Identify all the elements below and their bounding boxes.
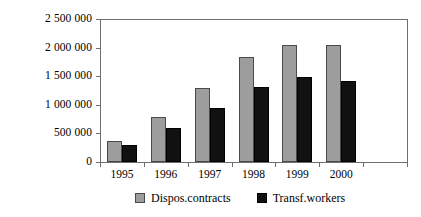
x-axis-tick-label: 1999 bbox=[275, 168, 319, 181]
legend-entry: Dispos.contracts bbox=[135, 192, 231, 204]
bar bbox=[151, 117, 166, 162]
bar bbox=[341, 81, 356, 162]
y-axis: 0500 0001 000 0001 500 0002 000 0002 500… bbox=[0, 0, 92, 217]
x-axis-tick-mark bbox=[144, 163, 145, 167]
bar bbox=[210, 108, 225, 162]
y-axis-tick-label: 1 000 000 bbox=[0, 99, 92, 111]
bar bbox=[166, 128, 181, 162]
x-axis-tick-mark bbox=[188, 163, 189, 167]
bar-group bbox=[326, 19, 356, 162]
x-axis-tick-label: 1998 bbox=[232, 168, 276, 181]
bar bbox=[239, 57, 254, 162]
x-axis-tick-label: 1996 bbox=[144, 168, 188, 181]
x-axis-tick-label: 2000 bbox=[319, 168, 363, 181]
x-axis-tick-label: 1995 bbox=[100, 168, 144, 181]
bar-group bbox=[282, 19, 312, 162]
bar-group bbox=[107, 19, 137, 162]
bar-group bbox=[151, 19, 181, 162]
legend-label: Transf.workers bbox=[273, 192, 346, 204]
legend-swatch-icon bbox=[135, 193, 145, 203]
y-axis-tick-label: 2 000 000 bbox=[0, 42, 92, 54]
legend-entry: Transf.workers bbox=[257, 192, 346, 204]
x-axis-tick-mark bbox=[319, 163, 320, 167]
y-axis-tick-label: 0 bbox=[0, 156, 92, 168]
x-axis-tick-mark bbox=[232, 163, 233, 167]
x-axis-tick-mark bbox=[100, 163, 101, 167]
x-axis-tick-label: 1997 bbox=[188, 168, 232, 181]
bar bbox=[297, 77, 312, 162]
legend-label: Dispos.contracts bbox=[151, 192, 231, 204]
bar bbox=[122, 145, 137, 162]
chart-legend: Dispos.contractsTransf.workers bbox=[135, 192, 345, 204]
x-axis-line bbox=[100, 162, 408, 163]
x-axis-tick-mark bbox=[275, 163, 276, 167]
bars-container bbox=[100, 19, 407, 162]
bar bbox=[326, 45, 341, 162]
bar-group bbox=[370, 19, 400, 162]
x-axis-tick-mark bbox=[407, 163, 408, 167]
bar bbox=[107, 141, 122, 162]
bar bbox=[254, 87, 269, 163]
legend-swatch-icon bbox=[257, 193, 267, 203]
x-axis-tick-mark bbox=[363, 163, 364, 167]
bar-chart: 0500 0001 000 0001 500 0002 000 0002 500… bbox=[0, 0, 421, 217]
bar-group bbox=[239, 19, 269, 162]
bar bbox=[195, 88, 210, 162]
y-axis-tick-label: 500 000 bbox=[0, 127, 92, 139]
bar bbox=[282, 45, 297, 162]
y-axis-tick-label: 1 500 000 bbox=[0, 70, 92, 82]
bar-group bbox=[195, 19, 225, 162]
y-axis-tick-label: 2 500 000 bbox=[0, 13, 92, 25]
